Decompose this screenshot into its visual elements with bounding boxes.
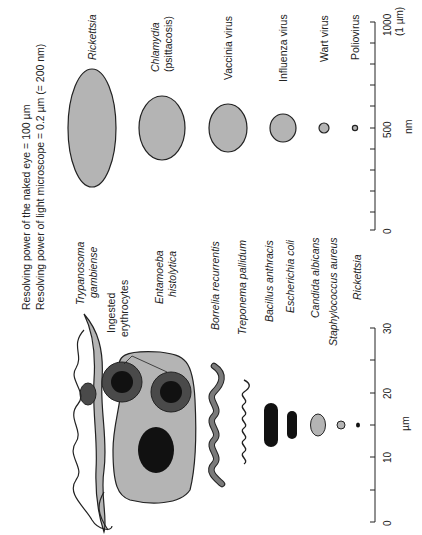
um-scale-axis xyxy=(370,328,375,522)
label-rickettsia-large: Rickettsia xyxy=(351,254,363,300)
trypanosoma-shape xyxy=(73,314,112,532)
um-tick-30: 30 xyxy=(382,322,393,334)
nm-tick-1000: 1000 xyxy=(382,13,393,36)
light-microscope-resolution-text: Resolving power of light microscope = 0.… xyxy=(34,44,46,310)
resolving-power-notes: Resolving power of the naked eye = 100 µ… xyxy=(20,44,46,310)
vaccinia-virus-shape xyxy=(209,104,247,152)
label-entamoeba-sub: histolytica xyxy=(166,251,178,297)
rickettsia-large-scale-shape xyxy=(356,422,360,427)
rickettsia-shape xyxy=(68,69,116,187)
influenza-virus-shape xyxy=(270,114,296,142)
staphylococcus-aureus-shape xyxy=(337,421,345,429)
label-entamoeba: Entamoeba xyxy=(153,250,165,304)
um-tick-10: 10 xyxy=(382,451,393,463)
label-erythrocytes: erythrocytes xyxy=(118,280,130,337)
label-chlamydia-sub: (psittacosis) xyxy=(162,16,174,72)
label-influenza-virus: Influenza virus xyxy=(277,14,289,82)
large-organism-labels: Trypanosoma gambiense Ingested erythrocy… xyxy=(74,237,363,346)
entamoeba-nucleus xyxy=(138,427,174,473)
small-organism-shapes xyxy=(68,69,358,187)
label-wart-virus: Wart virus xyxy=(318,15,330,62)
entamoeba-shape xyxy=(102,352,196,503)
microorganism-size-diagram: Resolving power of the naked eye = 100 µ… xyxy=(0,0,422,535)
label-staphylococcus-aureus: Staphylococcus aureus xyxy=(327,237,339,346)
bacillus-anthracis-shape xyxy=(264,403,278,447)
treponema-shape xyxy=(242,380,249,464)
label-ingested: Ingested xyxy=(105,293,117,333)
escherichia-coli-shape xyxy=(287,411,297,439)
chlamydia-shape xyxy=(139,96,185,160)
um-tick-20: 20 xyxy=(382,387,393,399)
label-poliovirus: Poliovirus xyxy=(349,14,361,60)
trypanosoma-nucleus xyxy=(80,383,96,405)
wart-virus-shape xyxy=(319,123,329,133)
label-borrelia: Borrelia recurrentis xyxy=(209,241,221,330)
nm-tick-1um-note: (1 µm) xyxy=(394,7,405,36)
label-bacillus-anthracis: Bacillus anthracis xyxy=(263,240,275,322)
nm-tick-0: 0 xyxy=(382,228,393,234)
naked-eye-resolution-text: Resolving power of the naked eye = 100 µ… xyxy=(20,104,32,310)
nm-scale-axis xyxy=(370,22,375,230)
label-rickettsia-small: Rickettsia xyxy=(86,14,98,60)
um-unit-label: µm xyxy=(399,416,411,431)
label-treponema: Treponema pallidum xyxy=(236,240,248,335)
nm-unit-label: nm xyxy=(402,119,414,134)
label-chlamydia: Chlamydia xyxy=(149,22,161,72)
um-tick-0: 0 xyxy=(382,520,393,526)
candida-albicans-shape xyxy=(311,414,326,436)
label-trypanosoma-sub: gambiense xyxy=(87,246,99,298)
label-vaccinia-virus: Vaccinia virus xyxy=(222,16,234,80)
small-organism-labels: Rickettsia Chlamydia (psittacosis) Vacci… xyxy=(86,14,361,82)
label-escherichia-coli: Escherichia coli xyxy=(284,239,296,313)
poliovirus-shape xyxy=(352,125,357,130)
label-candida-albicans: Candida albicans xyxy=(309,237,321,318)
nm-tick-500: 500 xyxy=(382,121,393,138)
label-trypanosoma: Trypanosoma xyxy=(74,241,86,305)
trypanosoma-flagellum xyxy=(73,330,112,529)
